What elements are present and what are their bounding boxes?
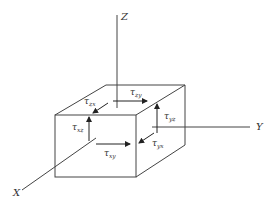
- tau-xz-label: τxz: [72, 123, 84, 133]
- tau-zx-label: τzx: [84, 97, 96, 107]
- tau-xy-label: τxy: [104, 149, 116, 159]
- z-axis-label: Z: [121, 12, 128, 22]
- tau-yx-label: τyx: [152, 139, 164, 149]
- x-axis-label: X: [13, 188, 20, 198]
- tau-yz-label: τyz: [164, 112, 176, 122]
- x-axis: [22, 138, 96, 190]
- diagram-canvas: [0, 0, 279, 207]
- tau-zy-label: τzy: [130, 88, 142, 98]
- y-axis-label: Y: [256, 122, 263, 132]
- stress-element-diagram: Z Y X τzy τzx τxz τxy τyz τyx: [0, 0, 279, 207]
